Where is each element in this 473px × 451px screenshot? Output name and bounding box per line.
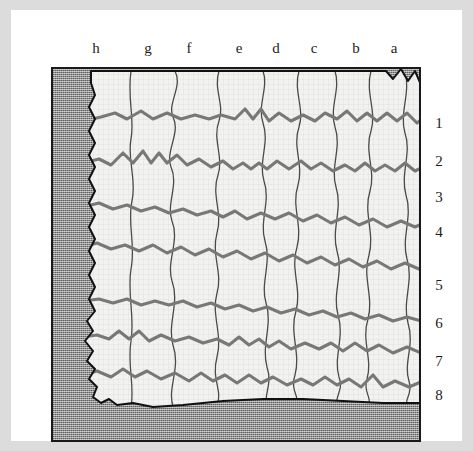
column-label-c: c [305, 41, 323, 56]
column-label-f: f [180, 41, 198, 56]
excavation-plan-frame [51, 67, 421, 442]
row-label-1: 1 [430, 116, 448, 131]
figure-paper: h g f e d c b a 1 2 3 4 5 6 7 8 [11, 10, 462, 441]
figure-page: h g f e d c b a 1 2 3 4 5 6 7 8 [0, 0, 473, 451]
excavation-plan-drawing [53, 69, 419, 440]
row-label-6: 6 [430, 316, 448, 331]
row-label-5: 5 [430, 278, 448, 293]
row-label-8: 8 [430, 388, 448, 403]
row-label-7: 7 [430, 354, 448, 369]
column-label-g: g [139, 41, 157, 56]
column-label-b: b [347, 41, 365, 56]
row-label-2: 2 [430, 154, 448, 169]
column-label-e: e [230, 41, 248, 56]
column-label-h: h [87, 41, 105, 56]
row-label-4: 4 [430, 225, 448, 240]
column-label-a: a [385, 41, 403, 56]
row-label-3: 3 [430, 190, 448, 205]
column-label-d: d [267, 41, 285, 56]
